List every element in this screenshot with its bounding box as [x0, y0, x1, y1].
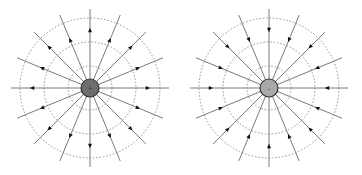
field-line	[275, 94, 324, 143]
arrow-icon	[325, 86, 330, 90]
charge-sign-label: +	[88, 85, 92, 92]
field-line	[213, 94, 262, 143]
field-line	[98, 58, 163, 85]
field-line	[34, 32, 83, 81]
field-line	[213, 32, 262, 81]
positive-charge-diagram: +	[11, 9, 169, 167]
arrow-icon	[88, 144, 92, 149]
arrow-icon	[267, 144, 271, 149]
arrow-icon	[146, 86, 151, 90]
arrow-icon	[30, 86, 35, 90]
field-line	[96, 94, 145, 143]
field-line	[239, 15, 266, 80]
arrow-icon	[88, 28, 92, 33]
field-line	[60, 15, 87, 80]
field-line	[96, 32, 145, 81]
field-line	[34, 94, 83, 143]
arrow-icon	[267, 28, 271, 33]
field-line	[272, 15, 299, 80]
field-line	[272, 96, 299, 161]
field-line	[93, 15, 120, 80]
field-line	[196, 58, 261, 85]
field-line	[277, 58, 342, 85]
field-line	[277, 91, 342, 118]
field-line	[60, 96, 87, 161]
field-line	[239, 96, 266, 161]
field-line	[93, 96, 120, 161]
field-line	[17, 91, 82, 118]
negative-charge-diagram: -	[190, 9, 348, 167]
field-line	[98, 91, 163, 118]
field-line	[196, 91, 261, 118]
arrow-icon	[209, 86, 214, 90]
field-line	[275, 32, 324, 81]
field-line	[17, 58, 82, 85]
field-diagrams: +-	[0, 0, 362, 175]
